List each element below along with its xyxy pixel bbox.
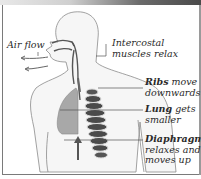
label-diaphragm-line3: moves up	[145, 155, 201, 166]
arrow-left-icon	[21, 56, 48, 71]
label-diaphragm: Diaphragm relaxes and moves up	[145, 134, 201, 166]
label-ribs-rest: move	[169, 76, 198, 87]
label-intercostal-line2: muscles relax	[112, 49, 178, 60]
label-intercostal: Intercostal muscles relax	[112, 38, 178, 59]
label-lung: Lung gets smaller	[145, 104, 196, 125]
label-airflow: Air flow	[7, 40, 45, 51]
label-lung-bold: Lung	[145, 103, 172, 114]
label-ribs-bold: Ribs	[145, 76, 169, 87]
label-ribs-line2: downwards	[145, 88, 200, 99]
label-intercostal-line1: Intercostal	[112, 38, 178, 49]
label-lung-rest: gets	[172, 103, 195, 114]
label-ribs: Ribs move downwards	[145, 77, 200, 98]
label-diaphragm-bold: Diaphragm	[145, 134, 201, 145]
label-lung-line2: smaller	[145, 115, 196, 126]
